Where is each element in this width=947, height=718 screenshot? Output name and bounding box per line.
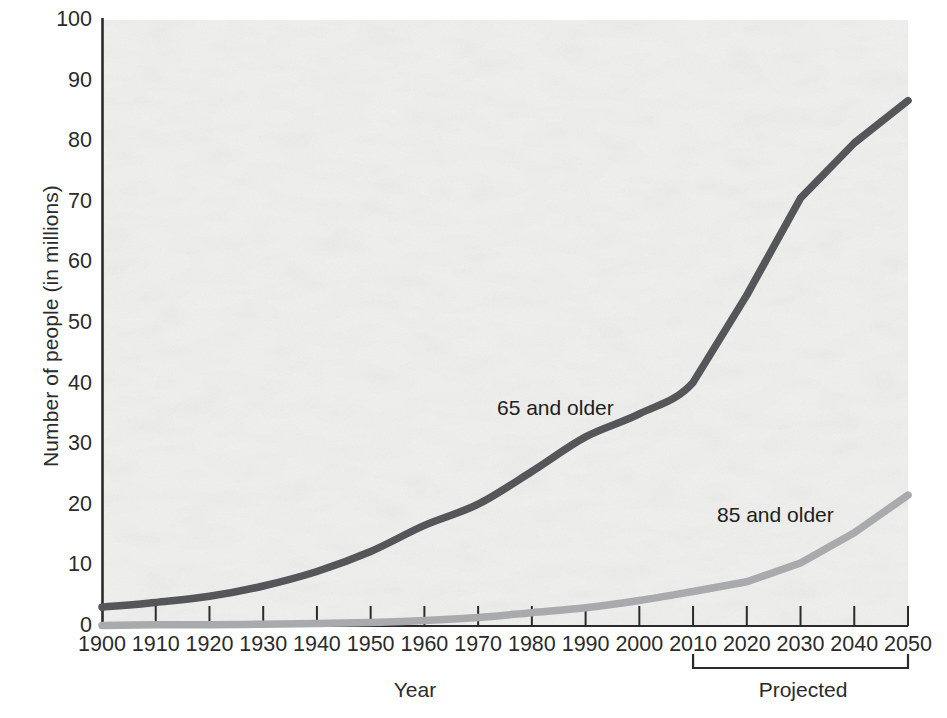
plot-area bbox=[0, 0, 947, 718]
x-axis-title: Year bbox=[355, 678, 475, 702]
y-tick-label: 40 bbox=[30, 373, 92, 395]
y-tick-label: 90 bbox=[30, 70, 92, 92]
y-tick-label: 10 bbox=[30, 554, 92, 576]
paper-showthrough-overlay bbox=[102, 20, 908, 626]
y-tick-label: 30 bbox=[30, 433, 92, 455]
series-label-85-and-older: 85 and older bbox=[717, 503, 834, 527]
y-tick-label: 50 bbox=[30, 312, 92, 334]
y-axis-tick-labels: 0102030405060708090100 bbox=[24, 0, 92, 718]
x-tick-label: 2050 bbox=[873, 634, 943, 656]
chart-figure: Number of people (in millions) 010203040… bbox=[0, 0, 947, 718]
y-tick-label: 80 bbox=[30, 130, 92, 152]
y-tick-label: 20 bbox=[30, 494, 92, 516]
y-tick-label: 70 bbox=[30, 191, 92, 213]
y-tick-label: 60 bbox=[30, 251, 92, 273]
y-tick-label: 100 bbox=[30, 9, 92, 31]
x-axis-tick-labels: 1900191019201930194019501960197019801990… bbox=[0, 634, 947, 668]
series-label-65-and-older: 65 and older bbox=[497, 396, 614, 420]
projected-caption: Projected bbox=[688, 678, 918, 702]
